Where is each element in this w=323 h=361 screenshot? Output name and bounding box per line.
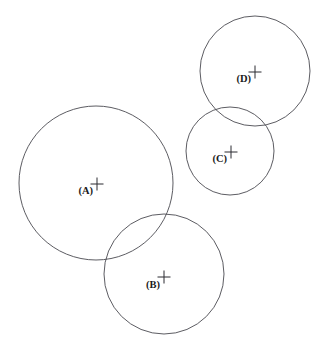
circle-group-B[interactable]: (B): [104, 214, 224, 334]
circle-outline-a[interactable]: [19, 106, 173, 260]
region-label-d: (D): [236, 73, 251, 85]
region-label-c: (C): [212, 153, 227, 165]
circle-group-A[interactable]: (A): [19, 106, 173, 260]
diagram-canvas: (A) (B) (C) (D): [0, 0, 323, 361]
circle-diagram: (A) (B) (C) (D): [0, 0, 323, 361]
region-label-b: (B): [146, 279, 161, 291]
region-label-a: (A): [78, 185, 93, 197]
